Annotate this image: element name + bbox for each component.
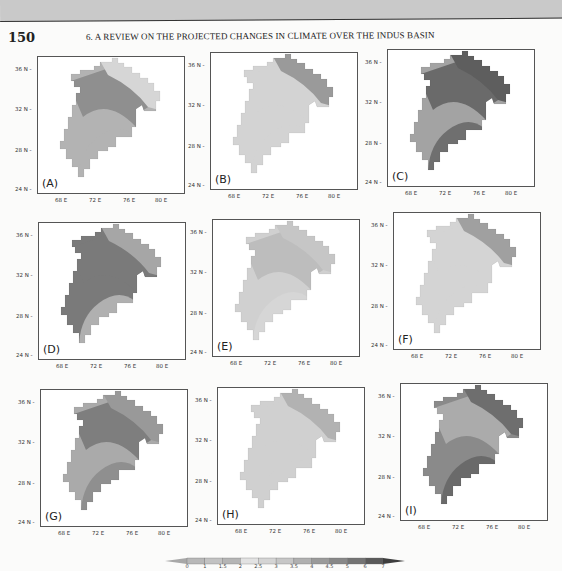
x-tick-label: 72 E xyxy=(264,360,276,366)
x-tick-label: 76 E xyxy=(124,363,136,369)
x-tick-label: 80 E xyxy=(328,193,340,199)
y-tick-label: 32 N - xyxy=(365,99,382,105)
y-tick-label: 24 N - xyxy=(195,517,212,523)
colorbar-tick-label: 4 xyxy=(310,563,313,569)
panel-label: (A) xyxy=(42,177,58,190)
panel-label: (G) xyxy=(45,510,62,523)
x-tick-label: 76 E xyxy=(123,197,135,203)
y-tick-label: 32 N - xyxy=(190,269,207,275)
y-tick-label: 32 N - xyxy=(378,433,395,439)
panel-label: (E) xyxy=(217,340,233,353)
y-tick-label: 24 N - xyxy=(365,179,382,185)
y-tick-label: 32 N - xyxy=(15,106,32,112)
x-tick-label: 76 E xyxy=(303,528,315,534)
x-tick-label: 80 E xyxy=(505,190,517,196)
x-tick-label: 76 E xyxy=(479,353,491,359)
colorbar-tick-label: 3 xyxy=(274,563,277,569)
x-tick-label: 68 E xyxy=(56,363,68,369)
colorbar-tick-label: 1.5 xyxy=(219,563,227,569)
basin-map xyxy=(211,53,359,191)
y-tick-label: 24 N - xyxy=(378,513,395,519)
x-tick-label: 80 E xyxy=(518,524,530,530)
x-tick-label: 72 E xyxy=(452,524,464,530)
y-tick-label: 36 N - xyxy=(16,232,33,238)
colorbar-tick-label: 7 xyxy=(381,563,384,569)
y-tick-label: 36 N - xyxy=(378,393,395,399)
y-tick-label: 28 N - xyxy=(365,140,382,146)
map-panel-g: (G) xyxy=(40,389,188,527)
x-tick-label: 80 E xyxy=(158,530,170,536)
y-tick-label: 28 N - xyxy=(371,303,388,309)
page-number: 150 xyxy=(8,30,35,45)
y-tick-label: 36 N - xyxy=(18,399,35,405)
y-tick-label: 36 N - xyxy=(195,397,212,403)
y-tick-label: 28 N - xyxy=(15,147,32,153)
basin-map xyxy=(401,384,549,522)
map-panel-d: (D) xyxy=(38,222,186,360)
y-tick-label: 32 N - xyxy=(188,102,205,108)
colorbar-tick-label: 4.5 xyxy=(326,563,334,569)
colorbar-tick-label: 2.5 xyxy=(254,563,262,569)
x-tick-label: 80 E xyxy=(511,353,523,359)
map-panel-f: (F) xyxy=(393,212,541,350)
x-tick-label: 80 E xyxy=(155,197,167,203)
x-tick-label: 76 E xyxy=(126,530,138,536)
panel-label: (C) xyxy=(392,170,408,183)
x-tick-label: 72 E xyxy=(439,190,451,196)
x-tick-label: 68 E xyxy=(228,193,240,199)
colorbar-tick-label: 6 xyxy=(364,563,367,569)
y-tick-label: 36 N - xyxy=(371,222,388,228)
x-tick-label: 68 E xyxy=(411,353,423,359)
header-band xyxy=(0,0,562,22)
colorbar-tick-label: 0 xyxy=(185,563,188,569)
panel-label: (B) xyxy=(215,173,231,186)
colorbar-ticks: 011.522.533.544.5567 xyxy=(165,563,405,571)
x-tick-label: 80 E xyxy=(335,528,347,534)
basin-map xyxy=(213,220,361,358)
panel-label: (I) xyxy=(405,504,417,517)
y-tick-label: 36 N - xyxy=(188,62,205,68)
x-tick-label: 72 E xyxy=(269,528,281,534)
x-tick-label: 80 E xyxy=(156,363,168,369)
basin-map xyxy=(394,213,542,351)
map-panel-i: (I) xyxy=(400,383,548,521)
x-tick-label: 68 E xyxy=(235,528,247,534)
y-tick-label: 36 N - xyxy=(15,66,32,72)
y-tick-label: 36 N - xyxy=(190,229,207,235)
y-tick-label: 24 N - xyxy=(371,342,388,348)
y-tick-label: 24 N - xyxy=(15,186,32,192)
y-tick-label: 32 N - xyxy=(18,439,35,445)
x-tick-label: 68 E xyxy=(418,524,430,530)
colorbar-tick-label: 5 xyxy=(346,563,349,569)
colorbar-tick-label: 3.5 xyxy=(290,563,298,569)
x-tick-label: 68 E xyxy=(405,190,417,196)
y-tick-label: 24 N - xyxy=(18,519,35,525)
panel-label: (D) xyxy=(43,343,60,356)
x-tick-label: 80 E xyxy=(330,360,342,366)
map-panel-h: (H) xyxy=(217,387,365,525)
x-tick-label: 72 E xyxy=(90,363,102,369)
y-tick-label: 32 N - xyxy=(195,437,212,443)
map-panel-e: (E) xyxy=(212,219,360,357)
x-tick-label: 76 E xyxy=(486,524,498,530)
y-tick-label: 28 N - xyxy=(190,310,207,316)
map-panel-b: (B) xyxy=(210,52,358,190)
x-tick-label: 68 E xyxy=(58,530,70,536)
map-panel-c: (C) xyxy=(387,49,535,187)
y-tick-label: 28 N - xyxy=(188,143,205,149)
x-tick-label: 76 E xyxy=(296,193,308,199)
basin-map xyxy=(388,50,536,188)
basin-map xyxy=(218,388,366,526)
y-tick-label: 24 N - xyxy=(190,349,207,355)
colorbar: 011.522.533.544.5567 xyxy=(165,553,405,571)
basin-map xyxy=(38,57,186,195)
y-tick-label: 24 N - xyxy=(188,182,205,188)
colorbar-tick-label: 2 xyxy=(239,563,242,569)
y-tick-label: 32 N - xyxy=(371,262,388,268)
x-tick-label: 72 E xyxy=(92,530,104,536)
basin-map xyxy=(39,223,187,361)
y-tick-label: 24 N - xyxy=(16,352,33,358)
x-tick-label: 72 E xyxy=(262,193,274,199)
y-tick-label: 32 N - xyxy=(16,272,33,278)
colorbar-tick-label: 1 xyxy=(203,563,206,569)
